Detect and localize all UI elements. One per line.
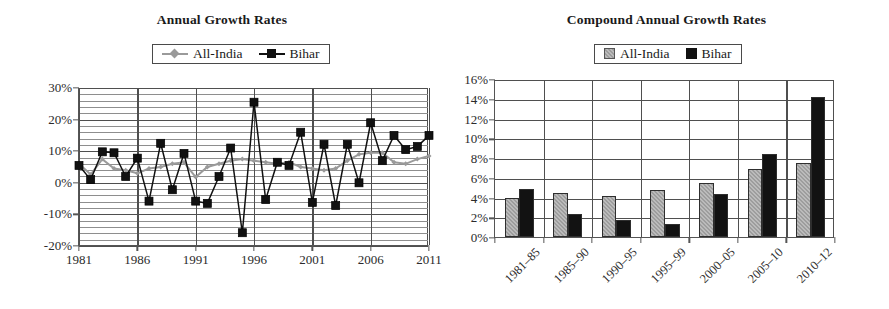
bar-all-india xyxy=(650,190,665,237)
x-tick-mark xyxy=(689,237,690,243)
x-axis-tick-label: 1985–90 xyxy=(551,245,593,287)
data-point-marker xyxy=(390,131,398,139)
bar-bihar xyxy=(714,194,729,237)
line-path-all-india xyxy=(79,153,429,177)
y-axis-tick-label: 8% xyxy=(471,151,495,167)
legend-item-bihar: Bihar xyxy=(686,47,732,61)
legend-label-all-india: All-India xyxy=(620,47,670,61)
data-point-marker xyxy=(75,161,83,169)
square-swatch-icon-bihar xyxy=(686,48,697,59)
x-tick-mark xyxy=(834,237,835,243)
data-point-marker xyxy=(87,176,95,184)
x-axis-tick-label: 2001 xyxy=(299,252,325,268)
x-tick-mark xyxy=(312,245,313,251)
x-axis-tick-label: 2006 xyxy=(358,252,384,268)
legend-item-all-india: All-India xyxy=(604,47,670,61)
data-point-marker xyxy=(110,149,118,157)
bar-bihar xyxy=(616,220,631,237)
group-separator-line xyxy=(689,80,690,237)
bar-bihar xyxy=(665,224,680,237)
x-tick-mark xyxy=(640,237,641,243)
group-separator-line xyxy=(738,80,739,237)
y-axis-tick-label: 0% xyxy=(55,175,79,191)
gridline-horizontal xyxy=(495,179,834,180)
x-axis-tick-label: 2005–10 xyxy=(745,245,787,287)
gridline-horizontal xyxy=(495,159,834,160)
x-axis-tick-label: 1981–85 xyxy=(502,245,544,287)
y-axis-tick-label: 30% xyxy=(48,80,79,96)
x-tick-mark xyxy=(253,245,254,251)
x-tick-mark xyxy=(786,237,787,243)
x-tick-mark xyxy=(591,237,592,243)
data-point-marker xyxy=(413,142,421,150)
y-axis-tick-label: 2% xyxy=(471,210,495,226)
line-diamond-marker-icon xyxy=(162,49,188,59)
data-point-marker xyxy=(168,186,176,194)
figure-two-panel-growth-rates: Annual Growth Rates All-India Bihar 30%2… xyxy=(0,0,889,309)
right-plot-area: 0%2%4%6%8%10%12%14%16%1981–851985–901990… xyxy=(494,80,834,238)
bar-bihar xyxy=(519,189,534,237)
data-point-marker xyxy=(217,161,222,166)
y-axis-tick-label: 6% xyxy=(471,171,495,187)
bar-all-india xyxy=(602,196,617,237)
line-series-layer xyxy=(79,88,429,246)
square-swatch-icon-all-india xyxy=(604,48,615,59)
x-tick-mark xyxy=(543,237,544,243)
data-point-marker xyxy=(322,168,327,173)
x-axis-tick-label: 2011 xyxy=(416,252,442,268)
x-axis-tick-label: 1986 xyxy=(124,252,150,268)
data-point-marker xyxy=(297,128,305,136)
group-separator-line xyxy=(641,80,642,237)
x-axis-tick-label: 2000–05 xyxy=(697,245,739,287)
y-axis-tick-label: 12% xyxy=(464,112,495,128)
gridline-horizontal xyxy=(495,80,834,81)
legend-label-bihar: Bihar xyxy=(702,47,732,61)
group-separator-line xyxy=(544,80,545,237)
line-square-marker-icon xyxy=(259,49,285,59)
data-point-marker xyxy=(368,150,373,155)
data-point-marker xyxy=(170,161,175,166)
y-axis-tick-label: 10% xyxy=(48,143,79,159)
data-point-marker xyxy=(308,198,316,206)
data-point-marker xyxy=(427,153,432,158)
y-axis-tick-label: 20% xyxy=(48,112,79,128)
gridline-horizontal xyxy=(495,139,834,140)
data-point-marker xyxy=(332,202,340,210)
x-axis-tick-label: 1995–99 xyxy=(648,245,690,287)
x-axis-tick-label: 2010–12 xyxy=(794,245,836,287)
data-point-marker xyxy=(252,158,257,163)
x-tick-mark xyxy=(428,245,429,251)
gridline-horizontal xyxy=(495,120,834,121)
bar-all-india xyxy=(748,169,763,237)
data-point-marker xyxy=(367,119,375,127)
right-chart-legend: All-India Bihar xyxy=(594,44,742,64)
bar-bihar xyxy=(811,97,826,237)
x-axis-tick-label: 1991 xyxy=(183,252,209,268)
group-separator-line xyxy=(592,80,593,237)
y-axis-tick-label: 16% xyxy=(464,72,495,88)
data-point-marker xyxy=(320,140,328,148)
data-point-marker xyxy=(343,140,351,148)
data-point-marker xyxy=(133,154,141,162)
panel-annual-growth-rates: Annual Growth Rates All-India Bihar 30%2… xyxy=(0,0,444,309)
y-axis-tick-label: 0% xyxy=(471,230,495,246)
x-axis-tick-label: 1981 xyxy=(66,252,92,268)
x-tick-mark xyxy=(494,237,495,243)
data-point-marker xyxy=(158,165,163,170)
x-tick-mark xyxy=(78,245,79,251)
data-point-marker xyxy=(180,149,188,157)
data-point-marker xyxy=(355,179,363,187)
left-plot-area: 30%20%10%0%-10%-20%198119861991199620012… xyxy=(78,88,428,246)
right-chart-title: Compound Annual Growth Rates xyxy=(444,12,889,28)
left-chart-title: Annual Growth Rates xyxy=(0,12,444,28)
data-point-marker xyxy=(310,166,315,171)
x-tick-mark xyxy=(737,237,738,243)
x-tick-mark xyxy=(195,245,196,251)
bar-bihar xyxy=(762,154,777,237)
data-point-marker xyxy=(227,144,235,152)
data-point-marker xyxy=(263,160,268,165)
x-axis-tick-label: 1996 xyxy=(241,252,267,268)
data-point-marker xyxy=(425,131,433,139)
x-tick-mark xyxy=(370,245,371,251)
legend-item-bihar: Bihar xyxy=(259,47,320,61)
